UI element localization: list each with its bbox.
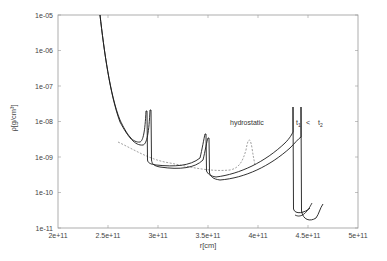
y-tick-labels: 1e-05 1e-06 1e-07 1e-08 1e-09 1e-10 1e-1…: [35, 12, 53, 232]
plot-frame: [58, 15, 358, 228]
x-tick-label: 3e+11: [148, 232, 167, 239]
density-curve-t2-tail: [295, 203, 312, 216]
density-curve-t1: [100, 15, 310, 213]
hydrostatic-label: hydrostatic: [230, 119, 264, 127]
y-tick-label: 1e-07: [35, 83, 53, 90]
x-axis-ticks: [108, 15, 308, 228]
less-than-label: <: [306, 119, 310, 126]
chart-svg: 1e-05 1e-06 1e-07 1e-08 1e-09 1e-10 1e-1…: [0, 0, 387, 261]
x-tick-label: 2e+11: [48, 232, 67, 239]
y-tick-label: 1e-08: [35, 118, 53, 125]
y-tick-label: 1e-05: [35, 12, 53, 19]
t2-subscript: 2: [320, 122, 323, 128]
x-tick-label: 5e+11: [348, 232, 367, 239]
t1-subscript: 1: [298, 122, 301, 128]
y-axis-label: ρ[g/cm³]: [9, 104, 18, 131]
density-curve-t2: [100, 15, 323, 220]
x-axis-label: r[cm]: [200, 241, 217, 250]
y-axis-ticks: [58, 15, 358, 228]
y-tick-label: 1e-11: [36, 225, 53, 232]
x-tick-label: 4e+11: [248, 232, 267, 239]
t2-label: t2: [318, 119, 323, 128]
y-tick-label: 1e-10: [35, 189, 53, 196]
x-tick-label: 3.5e+11: [196, 232, 221, 239]
x-tick-labels: 2e+11 2.5e+11 3e+11 3.5e+11 4e+11 4.5e+1…: [48, 232, 367, 239]
x-tick-label: 2.5e+11: [96, 232, 121, 239]
y-tick-label: 1e-06: [35, 47, 53, 54]
x-tick-label: 4.5e+11: [296, 232, 321, 239]
y-tick-label: 1e-09: [35, 154, 53, 161]
t1-label: t1: [296, 119, 301, 128]
